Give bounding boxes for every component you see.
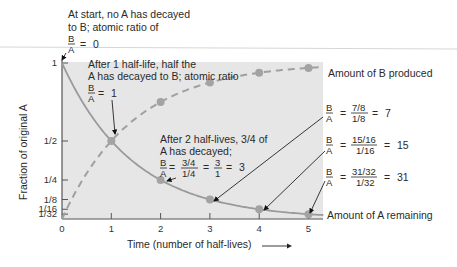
svg-text:=: =	[384, 171, 390, 183]
x-axis-arrow-icon	[262, 244, 292, 249]
svg-text:B: B	[88, 82, 94, 93]
svg-text:7: 7	[385, 107, 391, 119]
svg-text:3: 3	[215, 157, 220, 168]
svg-text:B: B	[68, 33, 74, 44]
svg-text:=: =	[340, 139, 346, 151]
svg-text:1: 1	[111, 87, 117, 99]
x-tick-label: 2	[158, 223, 163, 234]
svg-text:1: 1	[215, 168, 220, 179]
x-tick-label: 1	[109, 223, 114, 234]
arrow-start	[62, 53, 66, 60]
svg-text:3: 3	[239, 161, 245, 173]
svg-text:1/8: 1/8	[352, 113, 365, 124]
svg-text:=: =	[203, 161, 209, 173]
svg-text:31: 31	[397, 171, 409, 183]
y-tick-label: 1/32	[39, 208, 58, 219]
svg-text:B: B	[326, 102, 332, 113]
svg-text:At start, no A has decayed: At start, no A has decayed	[68, 8, 190, 20]
svg-text:1/4: 1/4	[182, 168, 195, 179]
legend-b-produced: Amount of B produced	[328, 67, 433, 79]
x-axis-title: Time (number of half-lives)	[127, 238, 251, 250]
svg-text:=: =	[226, 161, 232, 173]
svg-text:15/16: 15/16	[352, 134, 376, 145]
svg-text:A: A	[326, 145, 333, 156]
svg-text:0: 0	[93, 38, 99, 50]
svg-text:A has decayed to B; atomic rat: A has decayed to B; atomic ratio	[88, 70, 239, 82]
svg-text:A: A	[88, 93, 95, 104]
svg-text:A: A	[160, 168, 167, 179]
annotation-half-life-5: B A = 31/32 1/32 = 31	[326, 166, 409, 188]
svg-text:7/8: 7/8	[352, 102, 365, 113]
x-tick-label: 0	[59, 223, 64, 234]
x-tick-label: 3	[207, 223, 212, 234]
annotation-half-life-3: B A = 7/8 1/8 = 7	[326, 102, 391, 124]
svg-text:to B; atomic ratio of: to B; atomic ratio of	[68, 21, 159, 33]
svg-text:B: B	[160, 157, 166, 168]
x-tick-label: 4	[257, 223, 262, 234]
svg-text:A: A	[326, 113, 333, 124]
svg-text:15: 15	[397, 139, 409, 151]
y-axis-title: Fraction of original A	[17, 104, 29, 200]
svg-text:=: =	[80, 38, 86, 50]
y-tick-label: 1	[52, 57, 57, 68]
svg-text:31/32: 31/32	[352, 166, 376, 177]
x-tick-label: 5	[306, 223, 311, 234]
svg-text:3/4: 3/4	[182, 157, 195, 168]
svg-text:=: =	[98, 87, 104, 99]
y-tick-label: 1/4	[44, 174, 57, 185]
svg-text:=: =	[340, 107, 346, 119]
svg-text:After 2 half-lives, 3/4 of: After 2 half-lives, 3/4 of	[160, 133, 267, 145]
svg-text:=: =	[384, 139, 390, 151]
legend-a-remaining: Amount of A remaining	[327, 209, 433, 221]
svg-text:1/16: 1/16	[356, 145, 375, 156]
y-tick-label: 1/2	[44, 135, 57, 146]
svg-text:=: =	[169, 161, 175, 173]
half-life-chart: 012345 11/21/41/81/161/32 At start, no A…	[0, 0, 457, 267]
svg-text:B: B	[326, 134, 332, 145]
svg-text:A: A	[326, 177, 333, 188]
svg-text:=: =	[340, 171, 346, 183]
annotation-half-life-4: B A = 15/16 1/16 = 15	[326, 134, 409, 156]
svg-text:After 1 half-life, half the: After 1 half-life, half the	[88, 58, 196, 70]
svg-text:1/32: 1/32	[356, 177, 375, 188]
svg-text:A: A	[68, 44, 75, 55]
svg-text:=: =	[372, 107, 378, 119]
svg-text:B: B	[326, 166, 332, 177]
svg-text:A has decayed;: A has decayed;	[160, 145, 232, 157]
